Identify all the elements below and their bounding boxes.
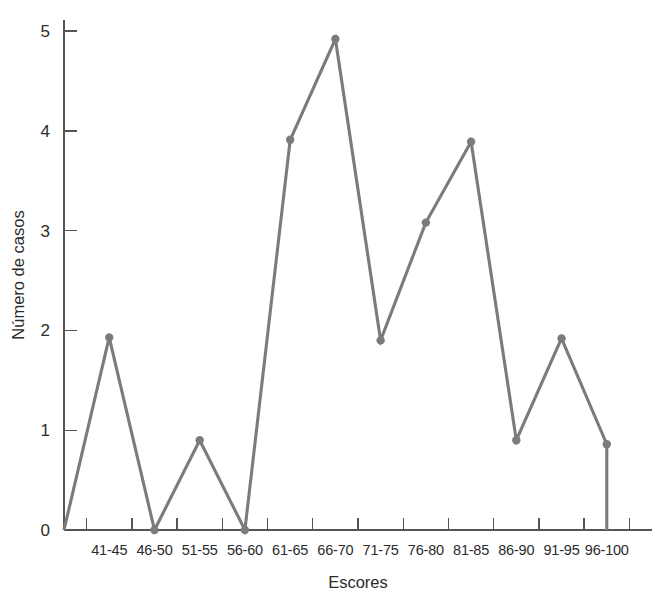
- y-axis-title: Número de casos: [9, 210, 27, 339]
- y-tick-label-3: 3: [41, 222, 50, 241]
- x-axis-title: Escores: [328, 573, 388, 591]
- x-category-label-76-80: 76-80: [408, 542, 444, 558]
- data-point-61-65: [286, 136, 294, 144]
- x-category-label-51-55: 51-55: [182, 542, 218, 558]
- data-point-46-50: [150, 526, 158, 534]
- data-point-56-60: [241, 526, 249, 534]
- series-marker-group: [105, 35, 611, 534]
- series-line-numero-de-casos: [64, 39, 607, 530]
- x-category-label-group: 41-4546-5051-5556-6061-6566-7071-7576-80…: [91, 542, 629, 558]
- x-category-label-61-65: 61-65: [272, 542, 308, 558]
- x-category-label-66-70: 66-70: [317, 542, 353, 558]
- data-point-41-45: [105, 333, 113, 341]
- x-category-label-96-100: 96-100: [585, 542, 629, 558]
- y-tick-group: [64, 31, 77, 530]
- data-point-86-90: [512, 436, 520, 444]
- data-point-71-75: [376, 336, 384, 344]
- x-category-label-46-50: 46-50: [136, 542, 172, 558]
- y-tick-label-5: 5: [41, 22, 50, 41]
- y-tick-label-group: 012345: [41, 22, 50, 540]
- y-tick-label-2: 2: [41, 321, 50, 340]
- x-tick-group: [87, 518, 630, 530]
- data-point-76-80: [422, 218, 430, 226]
- x-category-label-81-85: 81-85: [453, 542, 489, 558]
- x-category-label-86-90: 86-90: [498, 542, 534, 558]
- x-category-label-56-60: 56-60: [227, 542, 263, 558]
- x-category-label-41-45: 41-45: [91, 542, 127, 558]
- data-point-96-100: [603, 440, 611, 448]
- line-chart-svg: 012345 41-4546-5051-5556-6061-6566-7071-…: [0, 0, 670, 605]
- chart-container: 012345 41-4546-5051-5556-6061-6566-7071-…: [0, 0, 670, 605]
- x-category-label-91-95: 91-95: [543, 542, 579, 558]
- data-point-81-85: [467, 138, 475, 146]
- y-tick-label-4: 4: [41, 122, 50, 141]
- data-point-66-70: [331, 35, 339, 43]
- y-tick-label-1: 1: [41, 421, 50, 440]
- series-group: [64, 35, 611, 534]
- data-point-51-55: [195, 436, 203, 444]
- y-tick-label-0: 0: [41, 521, 50, 540]
- data-point-91-95: [557, 334, 565, 342]
- x-category-label-71-75: 71-75: [363, 542, 399, 558]
- y-axis-group: 012345: [41, 20, 77, 540]
